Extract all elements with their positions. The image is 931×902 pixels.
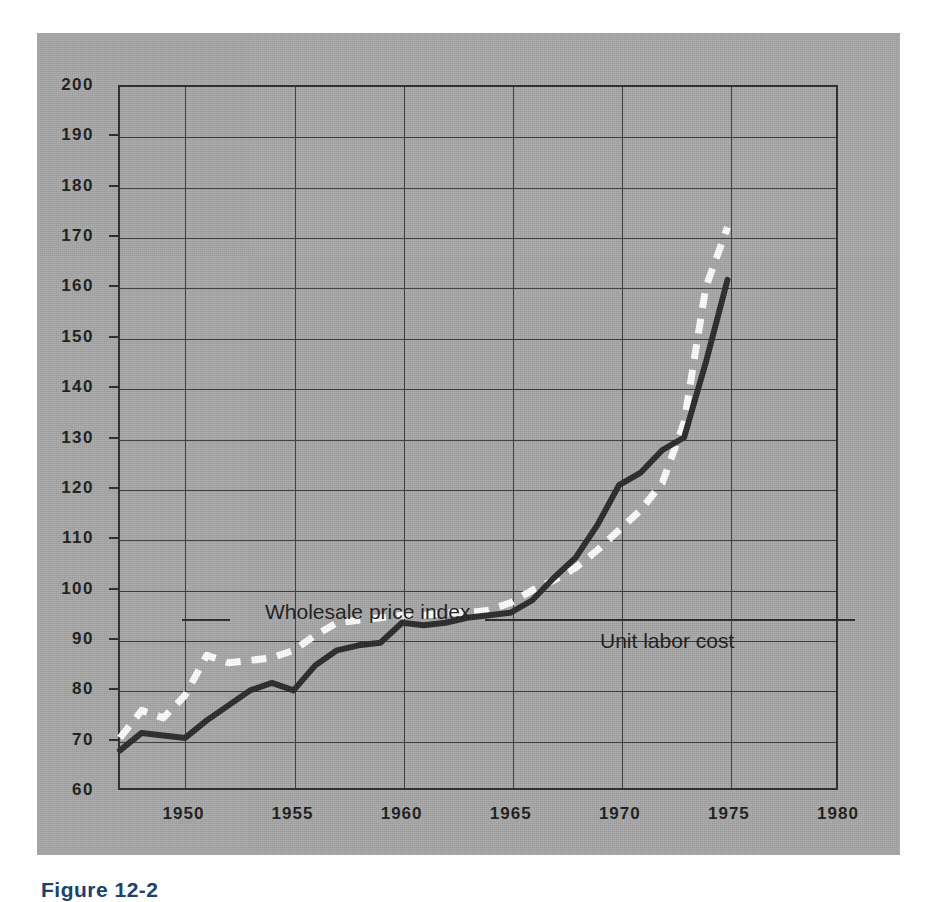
y-axis-tick-mark: [109, 386, 118, 388]
y-axis-tick-label: 140: [24, 377, 94, 397]
y-axis-tick-mark: [109, 537, 118, 539]
series-layer: [120, 87, 836, 788]
series-label-wholesale-price-index: Wholesale price index: [265, 600, 470, 624]
y-axis-tick-label: 170: [24, 226, 94, 246]
x-axis-tick-label: 1955: [248, 804, 338, 824]
series-label-unit-labor-cost: Unit labor cost: [600, 629, 734, 653]
y-axis-tick-label: 180: [24, 176, 94, 196]
y-axis-tick-label: 130: [24, 428, 94, 448]
leader-line-wholesale-right: [485, 619, 855, 621]
y-axis-tick-mark: [109, 487, 118, 489]
y-axis-tick-label: 200: [24, 75, 94, 95]
y-axis-tick-label: 80: [24, 679, 94, 699]
y-axis-tick-label: 70: [24, 730, 94, 750]
y-axis-tick-mark: [109, 638, 118, 640]
figure-caption: Figure 12-2: [41, 878, 159, 902]
x-axis-tick-label: 1980: [793, 804, 883, 824]
y-axis-tick-label: 120: [24, 478, 94, 498]
x-axis-tick-label: 1960: [357, 804, 447, 824]
y-axis-tick-label: 190: [24, 125, 94, 145]
y-axis-tick-mark: [109, 185, 118, 187]
y-axis-tick-label: 160: [24, 276, 94, 296]
y-axis-tick-mark: [109, 688, 118, 690]
chart-panel: 6070809010011012013014015016017018019020…: [37, 33, 900, 855]
x-axis-tick-label: 1965: [466, 804, 556, 824]
x-axis-tick-label: 1950: [138, 804, 228, 824]
y-axis-tick-label: 90: [24, 629, 94, 649]
y-axis-tick-mark: [109, 235, 118, 237]
plot-area: [118, 85, 838, 790]
y-axis-tick-label: 60: [24, 780, 94, 800]
x-axis-tick-label: 1970: [575, 804, 665, 824]
y-axis-tick-mark: [109, 588, 118, 590]
y-axis-tick-mark: [109, 285, 118, 287]
y-axis-tick-label: 100: [24, 579, 94, 599]
y-axis-tick-mark: [109, 739, 118, 741]
x-axis-tick-label: 1975: [684, 804, 774, 824]
y-axis-tick-mark: [109, 437, 118, 439]
y-axis-tick-mark: [109, 134, 118, 136]
y-axis-tick-mark: [109, 336, 118, 338]
leader-line-wholesale: [182, 619, 230, 621]
y-axis-tick-label: 150: [24, 327, 94, 347]
series-line-wholesale-price-index: [120, 227, 728, 738]
y-axis-tick-label: 110: [24, 528, 94, 548]
